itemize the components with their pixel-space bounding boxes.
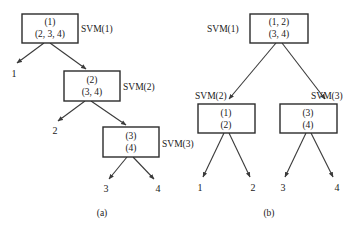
svm-label-b-1: SVM(1) (207, 24, 239, 35)
panel-caption-b: (b) (263, 208, 274, 219)
edge-a-node3-to-leaf4 (133, 157, 154, 179)
leaf-a-3: 3 (104, 183, 109, 194)
svm-label-b-3: SVM(3) (311, 91, 343, 102)
node-b-1-line1: (1, 2) (269, 17, 290, 28)
node-b-1-line2: (3, 4) (269, 29, 290, 40)
edge-b-node2-to-leaf1 (203, 133, 224, 177)
leaf-b-1: 1 (198, 182, 203, 193)
panel-b: (1, 2) (3, 4) SVM(1) (1) (2) SVM(2) (3) … (195, 14, 343, 219)
edge-b-node2-to-leaf2 (229, 133, 250, 177)
edge-b-node3-to-leaf4 (311, 133, 333, 177)
edge-a-root-to-leaf1 (17, 43, 44, 63)
node-a-3-line1: (3) (125, 131, 136, 142)
node-a-1-line2: (2, 3, 4) (35, 29, 65, 40)
leaf-a-1: 1 (12, 68, 17, 79)
leaf-a-4: 4 (156, 183, 161, 194)
edge-a-node2-to-leaf2 (58, 101, 85, 121)
svm-label-a-1: SVM(1) (81, 24, 113, 35)
panel-caption-a: (a) (97, 208, 108, 219)
node-a-2-line2: (3, 4) (82, 87, 103, 98)
leaf-b-2: 2 (251, 182, 256, 193)
svm-label-a-2: SVM(2) (123, 82, 155, 93)
svm-label-a-3: SVM(3) (162, 139, 194, 150)
node-a-2-line1: (2) (86, 75, 97, 86)
edge-b-root-to-node2 (229, 43, 276, 99)
leaf-a-2: 2 (53, 125, 58, 136)
edge-a-node3-to-leaf3 (109, 157, 127, 179)
edge-a-node2-to-node3 (91, 101, 126, 125)
svm-label-b-2: SVM(2) (195, 91, 227, 102)
panel-a: (1) (2, 3, 4) SVM(1) (2) (3, 4) SVM(2) (… (12, 14, 194, 219)
node-b-3-line2: (4) (302, 120, 313, 131)
leaf-b-4: 4 (335, 182, 340, 193)
node-b-2-line1: (1) (220, 108, 231, 119)
node-b-2-line2: (2) (220, 120, 231, 131)
edge-b-node3-to-leaf3 (285, 133, 306, 177)
edge-a-root-to-node2 (50, 43, 86, 69)
node-a-3-line2: (4) (125, 143, 136, 154)
node-b-3-line1: (3) (302, 108, 313, 119)
leaf-b-3: 3 (281, 182, 286, 193)
svm-tree-figure: (1) (2, 3, 4) SVM(1) (2) (3, 4) SVM(2) (… (0, 0, 359, 232)
node-a-1-line1: (1) (44, 17, 55, 28)
